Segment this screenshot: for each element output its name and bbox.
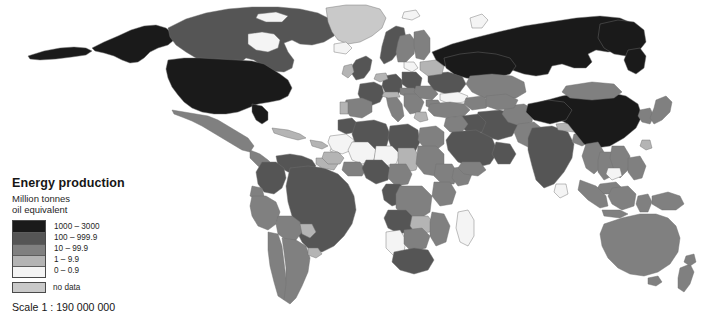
legend-label-10-99: 10 – 99.9: [54, 243, 88, 255]
legend-title: Energy production: [12, 176, 172, 190]
legend-row-no-data: no data: [12, 282, 46, 293]
energy-production-world-map: .b { fill:#1a1a1a; } .d { fill:#555555; …: [0, 0, 701, 325]
legend-swatch-1000-3000: [13, 221, 45, 232]
map-legend: Energy production Million tonnes oil equ…: [12, 176, 172, 313]
legend-label-0-09: 0 – 0.9: [54, 265, 79, 277]
legend-label-100-999: 100 – 999.9: [54, 232, 97, 244]
legend-swatch-100-999: [13, 232, 45, 243]
legend-swatch-1-9: [13, 255, 45, 266]
legend-row-class-1: 1000 – 3000: [13, 221, 45, 232]
legend-label-1000-3000: 1000 – 3000: [54, 221, 100, 233]
legend-row-class-3: 10 – 99.9: [13, 244, 45, 255]
legend-label-1-9: 1 – 9.9: [54, 254, 79, 266]
legend-label-no-data: no data: [53, 282, 80, 294]
legend-row-class-2: 100 – 999.9: [13, 232, 45, 243]
region-asia: [428, 16, 672, 198]
map-scale-text: Scale 1 : 190 000 000: [12, 301, 172, 313]
region-portugal: [340, 102, 348, 114]
legend-swatch-no-data: [12, 282, 46, 293]
legend-row-class-5: 0 – 0.9: [13, 266, 45, 277]
legend-subtitle: Million tonnes oil equivalent: [12, 194, 172, 215]
legend-swatch-stack: 1000 – 3000 100 – 999.9 10 – 99.9 1 – 9.…: [12, 220, 46, 278]
legend-row-class-4: 1 – 9.9: [13, 255, 45, 266]
legend-swatch-10-99: [13, 244, 45, 255]
region-switzerland-austria: [382, 92, 400, 98]
legend-swatch-0-09: [13, 266, 45, 277]
region-finland: [414, 30, 430, 60]
